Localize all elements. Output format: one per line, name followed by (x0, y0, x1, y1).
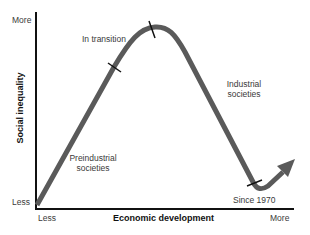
annotation-in-transition: In transition (82, 35, 126, 45)
y-tick-less: Less (12, 198, 30, 208)
y-tick-more: More (12, 16, 31, 26)
x-tick-less: Less (38, 214, 56, 224)
x-tick-more: More (270, 214, 289, 224)
y-axis-label: Social inequality (15, 72, 25, 143)
annotation-industrial-line2: societies (219, 90, 269, 100)
x-axis-label: Economic development (113, 213, 214, 223)
annotation-since-1970: Since 1970 (233, 196, 276, 206)
annotation-preindustrial: Preindustrial societies (63, 154, 123, 174)
annotation-industrial: Industrial societies (219, 80, 269, 100)
annotation-preindustrial-line2: societies (63, 164, 123, 174)
inequality-curve (37, 27, 283, 205)
